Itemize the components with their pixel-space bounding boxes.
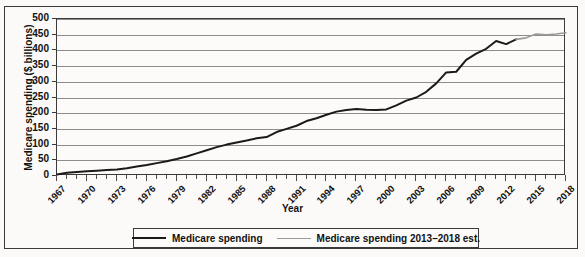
x-tick-mark-major xyxy=(236,175,237,181)
y-tick-mark xyxy=(52,128,56,129)
x-tick-mark-major xyxy=(355,175,356,181)
x-tick-mark-minor xyxy=(166,175,167,179)
chart-figure: Medicare spending ($ billions) 050100150… xyxy=(0,0,585,257)
legend-entry: Medicare spending xyxy=(132,233,263,244)
y-tick-label: 0 xyxy=(19,169,49,180)
x-tick-mark-major xyxy=(415,175,416,181)
y-tick-mark xyxy=(52,34,56,35)
x-tick-mark-minor xyxy=(96,175,97,179)
chart-legend: Medicare spendingMedicare spending 2013–… xyxy=(133,228,479,248)
y-tick-mark xyxy=(52,112,56,113)
x-tick-mark-major xyxy=(176,175,177,181)
x-tick-mark-major xyxy=(56,175,57,181)
x-tick-mark-minor xyxy=(515,175,516,179)
x-tick-mark-minor xyxy=(365,175,366,179)
x-tick-mark-minor xyxy=(375,175,376,179)
x-tick-mark-minor xyxy=(186,175,187,179)
y-tick-label: 250 xyxy=(19,91,49,102)
y-tick-label: 300 xyxy=(19,75,49,86)
legend-entry: Medicare spending 2013–2018 est. xyxy=(277,233,480,244)
legend-label: Medicare spending 2013–2018 est. xyxy=(317,233,480,244)
y-tick-label: 350 xyxy=(19,59,49,70)
x-tick-mark-minor xyxy=(286,175,287,179)
x-tick-mark-minor xyxy=(256,175,257,179)
x-tick-mark-major xyxy=(325,175,326,181)
legend-line-swatch-icon xyxy=(132,237,166,239)
x-tick-mark-minor xyxy=(405,175,406,179)
series-line xyxy=(516,33,566,40)
y-tick-mark xyxy=(52,49,56,50)
x-tick-mark-major xyxy=(206,175,207,181)
x-tick-mark-minor xyxy=(425,175,426,179)
x-tick-mark-major xyxy=(116,175,117,181)
y-tick-label: 500 xyxy=(19,12,49,23)
x-tick-mark-minor xyxy=(345,175,346,179)
x-axis-title: Year xyxy=(0,203,585,214)
x-tick-mark-minor xyxy=(525,175,526,179)
x-tick-mark-major xyxy=(535,175,536,181)
plot-area xyxy=(56,18,565,175)
x-tick-mark-major xyxy=(565,175,566,181)
x-tick-mark-major xyxy=(146,175,147,181)
y-tick-mark xyxy=(52,159,56,160)
y-tick-mark xyxy=(52,18,56,19)
x-tick-mark-minor xyxy=(226,175,227,179)
x-tick-mark-minor xyxy=(455,175,456,179)
x-tick-mark-major xyxy=(505,175,506,181)
x-tick-mark-minor xyxy=(126,175,127,179)
x-tick-mark-minor xyxy=(246,175,247,179)
x-tick-mark-minor xyxy=(156,175,157,179)
x-tick-mark-major xyxy=(266,175,267,181)
x-tick-mark-minor xyxy=(216,175,217,179)
y-tick-label: 150 xyxy=(19,122,49,133)
y-tick-label: 450 xyxy=(19,28,49,39)
x-tick-mark-minor xyxy=(106,175,107,179)
x-tick-mark-minor xyxy=(136,175,137,179)
x-tick-mark-minor xyxy=(465,175,466,179)
legend-line-swatch-icon xyxy=(277,238,311,239)
y-tick-mark xyxy=(52,65,56,66)
x-tick-mark-minor xyxy=(306,175,307,179)
y-tick-mark xyxy=(52,97,56,98)
y-tick-label: 50 xyxy=(19,153,49,164)
y-tick-label: 100 xyxy=(19,138,49,149)
x-tick-mark-major xyxy=(385,175,386,181)
x-tick-mark-minor xyxy=(395,175,396,179)
x-tick-mark-major xyxy=(475,175,476,181)
x-tick-mark-minor xyxy=(276,175,277,179)
x-tick-mark-minor xyxy=(76,175,77,179)
x-tick-mark-major xyxy=(86,175,87,181)
x-tick-mark-minor xyxy=(315,175,316,179)
x-tick-mark-minor xyxy=(495,175,496,179)
x-tick-mark-minor xyxy=(555,175,556,179)
y-tick-label: 200 xyxy=(19,106,49,117)
x-tick-mark-minor xyxy=(335,175,336,179)
x-tick-mark-major xyxy=(296,175,297,181)
x-tick-mark-minor xyxy=(435,175,436,179)
series-line xyxy=(57,39,516,174)
x-tick-mark-major xyxy=(445,175,446,181)
x-tick-mark-minor xyxy=(545,175,546,179)
y-tick-label: 400 xyxy=(19,43,49,54)
y-tick-mark xyxy=(52,81,56,82)
data-series-layer xyxy=(57,19,566,176)
legend-label: Medicare spending xyxy=(172,233,263,244)
x-tick-mark-minor xyxy=(196,175,197,179)
x-tick-mark-minor xyxy=(66,175,67,179)
x-tick-mark-minor xyxy=(485,175,486,179)
y-tick-mark xyxy=(52,144,56,145)
